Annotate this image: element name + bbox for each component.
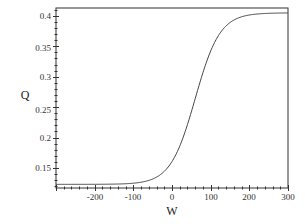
y-tick-label: 0.35 <box>35 43 51 53</box>
data-curve <box>56 13 288 184</box>
y-tick-label: 0.25 <box>35 105 51 115</box>
x-tick-label: 100 <box>204 192 218 202</box>
x-tick-label: -200 <box>87 192 104 202</box>
y-tick-label: 0.2 <box>40 133 51 143</box>
y-tick-label: 0.15 <box>35 163 51 173</box>
x-tick-label: -100 <box>125 192 142 202</box>
x-tick-label: 200 <box>242 192 256 202</box>
major-ticks <box>53 17 289 192</box>
minor-ticks <box>55 11 281 190</box>
x-axis-title: W <box>166 204 178 218</box>
y-axis-title: Q <box>21 88 30 102</box>
sigmoid-line-chart: 0.4 0.35 0.3 0.25 0.2 0.15 -200 -100 0 1… <box>0 0 305 224</box>
x-tick-label: 0 <box>170 192 175 202</box>
x-tick-label: 300 <box>281 192 295 202</box>
y-tick-label: 0.3 <box>40 72 52 82</box>
y-tick-label: 0.4 <box>40 11 52 21</box>
